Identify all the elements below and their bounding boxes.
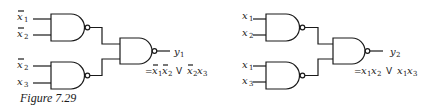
inversion-bubble: [300, 25, 305, 30]
svg-text:2: 2: [249, 32, 253, 40]
input-label-x2: x 2: [242, 27, 253, 40]
svg-text:x: x: [17, 28, 23, 39]
wire: [90, 59, 120, 76]
output-expression-y1: = x 1 x 2 V x 2 x 3: [145, 65, 207, 78]
nand-gate: [266, 62, 300, 89]
svg-text:x: x: [242, 10, 248, 21]
nand-gate-output: [333, 38, 365, 64]
inversion-bubble: [365, 49, 370, 54]
svg-text:y: y: [389, 46, 396, 57]
svg-text:x: x: [17, 76, 23, 87]
svg-text:2: 2: [24, 33, 28, 41]
svg-text:1: 1: [24, 16, 28, 24]
svg-text:1: 1: [249, 15, 253, 23]
svg-text:2: 2: [377, 70, 381, 78]
inversion-bubble: [152, 49, 157, 54]
svg-text:2: 2: [396, 51, 400, 59]
input-label-x2-bar: x 2: [17, 28, 28, 41]
svg-text:3: 3: [203, 70, 207, 78]
inversion-bubble: [300, 73, 305, 78]
svg-text:x: x: [242, 75, 248, 86]
wire: [305, 59, 333, 76]
output-expression-y2: = x 1 x 2 V x 1 x 3: [354, 65, 417, 78]
nand-gate-output: [120, 38, 152, 64]
input-label-x1: x 1: [242, 59, 253, 72]
input-label-x3: x 3: [242, 75, 253, 88]
nand-gate: [51, 14, 85, 41]
svg-text:x: x: [242, 59, 248, 70]
input-label-x1: x 1: [242, 10, 253, 23]
wire: [305, 28, 333, 45]
input-label-x2-bar: x 2: [17, 59, 28, 72]
output-label-y1: y 1: [173, 46, 184, 59]
svg-text:2: 2: [168, 70, 172, 78]
left-circuit: x 1 x 2 x 2 x 3: [17, 11, 207, 89]
wire: [90, 28, 120, 45]
svg-text:V: V: [386, 66, 393, 76]
svg-text:V: V: [176, 66, 183, 76]
input-label-x3: x 3: [17, 76, 28, 89]
svg-text:3: 3: [249, 80, 253, 88]
svg-text:y: y: [173, 46, 180, 57]
svg-text:1: 1: [180, 51, 184, 59]
right-circuit: x 1 x 2 x 1 x 3 y 2: [242, 10, 417, 89]
svg-text:x: x: [242, 27, 248, 38]
figure-caption: Figure 7.29: [20, 91, 76, 106]
svg-text:x: x: [17, 59, 23, 70]
output-label-y2: y 2: [389, 46, 400, 59]
svg-text:3: 3: [413, 70, 417, 78]
svg-text:1: 1: [249, 64, 253, 72]
inversion-bubble: [85, 73, 90, 78]
figure-7-29: x 1 x 2 x 2 x 3: [0, 0, 436, 111]
svg-text:3: 3: [24, 81, 28, 89]
svg-text:2: 2: [24, 64, 28, 72]
svg-text:x: x: [17, 11, 23, 22]
input-label-x1-bar: x 1: [17, 11, 28, 24]
nand-gate: [51, 62, 85, 89]
inversion-bubble: [85, 25, 90, 30]
nand-gate: [266, 14, 300, 41]
